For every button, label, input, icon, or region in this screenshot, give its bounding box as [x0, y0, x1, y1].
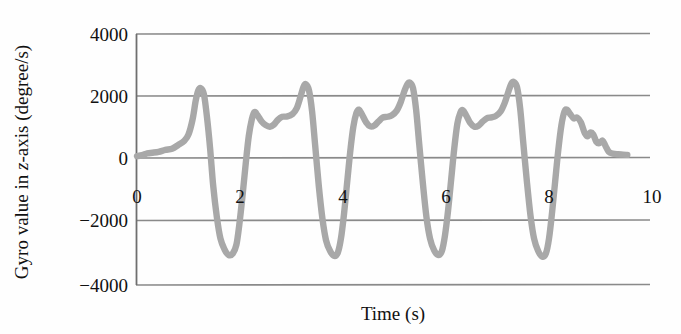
x-tick-label-8: 8: [544, 186, 554, 207]
y-tick-label-2000: 2000: [90, 86, 128, 107]
gridline-2000: [136, 96, 650, 97]
gridline-4000: [136, 34, 650, 35]
y-axis-title: Gyro value in z-axis (degree/s): [11, 45, 33, 279]
gridline-neg2000: [136, 220, 650, 221]
y-tick-label-neg4000: −4000: [79, 275, 128, 296]
y-tick-labels: 4000 2000 0 −2000 −4000: [79, 24, 128, 296]
gyro-z-axis-chart-figure: 4000 2000 0 −2000 −4000 0 2 4 6 8 10 Tim…: [0, 0, 681, 334]
gyro-z-data-trace: [137, 82, 627, 257]
y-tick-label-0: 0: [119, 148, 129, 169]
x-tick-label-0: 0: [132, 186, 142, 207]
gridline-neg4000: [136, 285, 650, 286]
x-tick-label-4: 4: [338, 186, 348, 207]
x-axis-title: Time (s): [361, 303, 425, 325]
x-tick-label-10: 10: [643, 186, 662, 207]
y-tick-label-4000: 4000: [90, 24, 128, 45]
chart-canvas: 4000 2000 0 −2000 −4000 0 2 4 6 8 10 Tim…: [0, 0, 681, 334]
y-axis-title-suffix: -axis (degree/s): [11, 45, 33, 163]
x-tick-label-2: 2: [235, 186, 245, 207]
y-axis-title-prefix: Gyro value in: [11, 170, 32, 279]
x-tick-label-6: 6: [441, 186, 451, 207]
y-tick-label-neg2000: −2000: [79, 210, 128, 231]
